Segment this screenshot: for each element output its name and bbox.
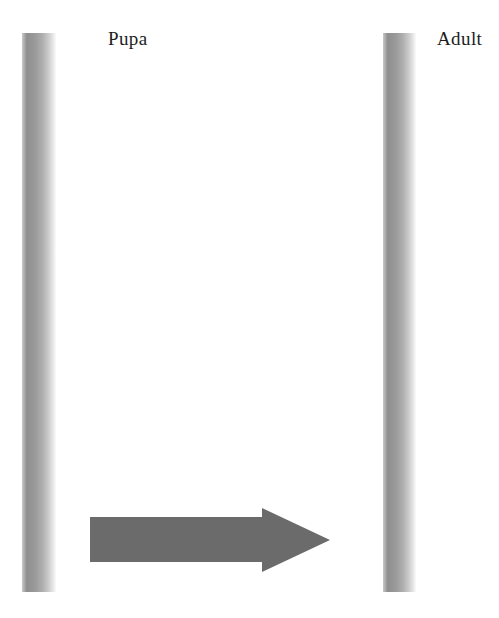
figure-canvas: Pupa Adult	[0, 0, 499, 618]
stage-label-adult: Adult	[437, 26, 482, 52]
left-column-divider-bar	[22, 33, 56, 592]
stage-label-pupa: Pupa	[108, 26, 148, 52]
right-column-divider-bar	[383, 33, 416, 592]
arrow-right-icon	[88, 504, 332, 578]
transition-arrow	[88, 504, 332, 578]
